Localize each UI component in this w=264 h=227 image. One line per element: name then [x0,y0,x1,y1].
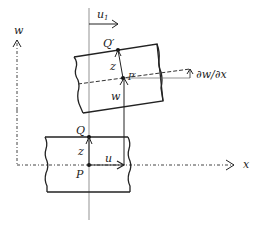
u-label: u [105,152,112,165]
w-axis-label: w [14,24,24,37]
x-axis-label: x [243,158,250,171]
z-bottom-label: z [77,145,84,158]
u1-label: u1 [97,8,109,22]
slope-label: ∂w/∂x [196,68,227,81]
deformed-beam-left-break [74,57,83,113]
p-prime-label: P′ [127,72,136,82]
z-top-label: z [109,60,116,73]
w-displacement-label: w [111,90,121,103]
q-label: Q [76,124,85,137]
p-label: P [75,168,84,181]
beam-kinematics-diagram: w x u1 ∂w/∂x Q′ P′ z w Q z P u [0,0,264,227]
q-prime-label: Q′ [103,37,115,50]
